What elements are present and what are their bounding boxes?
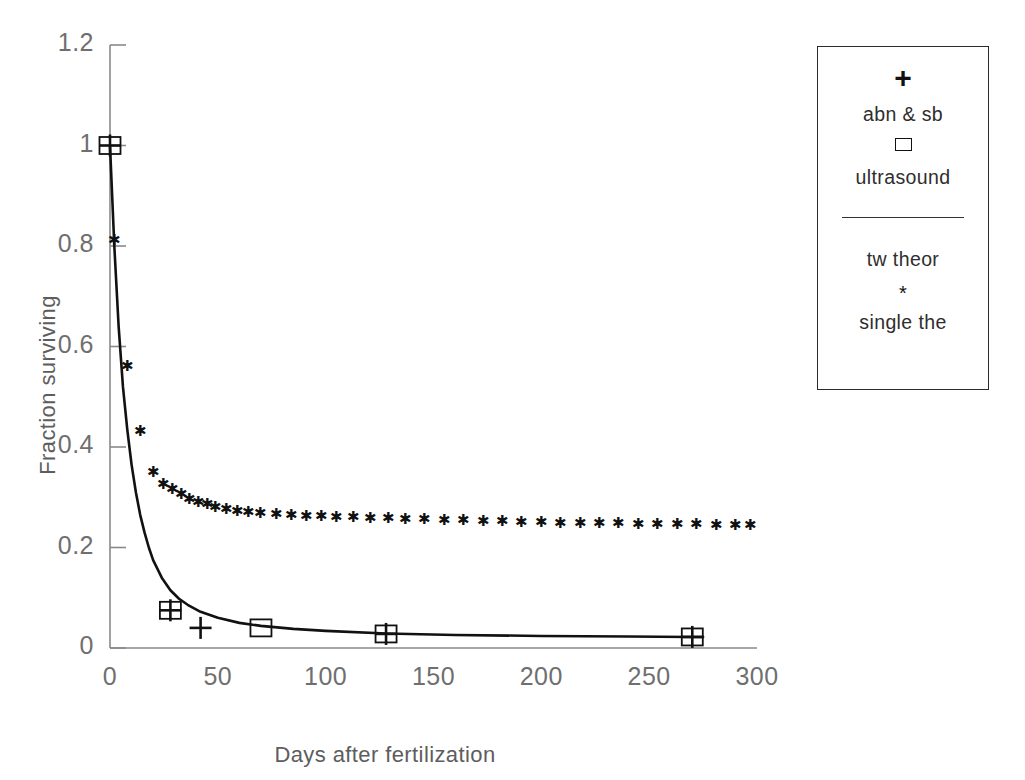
x-tick-label: 100	[266, 662, 386, 691]
star-marker: ✱	[574, 514, 587, 531]
legend-label-single-the: single the	[859, 311, 946, 334]
legend-label-ultrasound: ultrasound	[855, 166, 950, 189]
x-tick-label: 0	[50, 662, 170, 691]
legend-square-icon	[895, 138, 912, 154]
star-marker: ✱	[651, 515, 664, 532]
x-tick-label: 250	[589, 662, 709, 691]
star-marker: ✱	[399, 510, 412, 527]
x-tick-label: 300	[697, 662, 817, 691]
star-marker: ✱	[554, 514, 567, 531]
star-marker: ✱	[315, 507, 328, 524]
plus-marker	[190, 617, 212, 639]
x-tick-label: 150	[374, 662, 494, 691]
y-axis-title: Fraction surviving	[35, 275, 61, 495]
star-marker: ✱	[254, 504, 267, 521]
star-marker: ✱	[418, 510, 431, 527]
star-marker: ✱	[515, 513, 528, 530]
star-marker: ✱	[382, 509, 395, 526]
chart-figure: ✱✱✱✱✱✱✱✱✱✱✱✱✱✱✱✱✱✱✱✱✱✱✱✱✱✱✱✱✱✱✱✱✱✱✱✱✱✱✱✱…	[0, 0, 1025, 780]
star-marker: ✱	[270, 505, 283, 522]
legend-label-abn-sb: abn & sb	[863, 103, 943, 126]
y-tick-label: 1	[0, 129, 94, 158]
x-tick-label: 50	[158, 662, 278, 691]
star-marker: ✱	[729, 516, 742, 533]
axes-group	[110, 45, 757, 648]
star-marker: ✱	[593, 514, 606, 531]
star-marker: ✱	[671, 515, 684, 532]
star-marker: ✱	[612, 514, 625, 531]
star-marker: ✱	[242, 503, 255, 520]
y-tick-label: 0.8	[0, 229, 94, 258]
star-marker: ✱	[744, 516, 757, 533]
x-axis-title: Days after fertilization	[0, 742, 770, 768]
star-marker: ✱	[535, 513, 548, 530]
star-marker: ✱	[108, 231, 121, 248]
x-tick-label: 200	[481, 662, 601, 691]
star-marker: ✱	[330, 508, 343, 525]
star-marker: ✱	[438, 511, 451, 528]
legend-label-tw-theor: tw theor	[867, 248, 940, 271]
legend-star-icon: *	[899, 283, 907, 303]
star-marker: ✱	[347, 508, 360, 525]
y-tick-label: 1.2	[0, 28, 94, 57]
star-marker: ✱	[632, 515, 645, 532]
star-marker: ✱	[690, 515, 703, 532]
square-marker	[250, 619, 271, 636]
star-marker: ✱	[496, 512, 509, 529]
data-group: ✱✱✱✱✱✱✱✱✱✱✱✱✱✱✱✱✱✱✱✱✱✱✱✱✱✱✱✱✱✱✱✱✱✱✱✱✱✱✱✱…	[99, 135, 757, 648]
y-tick-label: 0	[0, 631, 94, 660]
y-tick-label: 0.2	[0, 531, 94, 560]
single-the-star-markers: ✱✱✱✱✱✱✱✱✱✱✱✱✱✱✱✱✱✱✱✱✱✱✱✱✱✱✱✱✱✱✱✱✱✱✱✱✱✱✱✱…	[108, 231, 757, 532]
tw-theor-curve	[110, 146, 703, 637]
star-marker: ✱	[134, 422, 147, 439]
chart-legend: + abn & sb ultrasound tw theor * single …	[817, 46, 989, 390]
star-marker: ✱	[300, 507, 313, 524]
abn-sb-plus-markers	[99, 135, 703, 648]
star-marker: ✱	[710, 516, 723, 533]
legend-square-glyph	[895, 138, 912, 151]
ultrasound-square-markers	[100, 137, 703, 645]
star-marker: ✱	[285, 506, 298, 523]
star-marker: ✱	[364, 509, 377, 526]
legend-line-icon	[842, 217, 964, 218]
star-marker: ✱	[457, 511, 470, 528]
y-axis-ticks	[110, 45, 126, 648]
legend-plus-icon: +	[894, 63, 912, 93]
star-marker: ✱	[121, 357, 134, 374]
star-marker: ✱	[477, 512, 490, 529]
